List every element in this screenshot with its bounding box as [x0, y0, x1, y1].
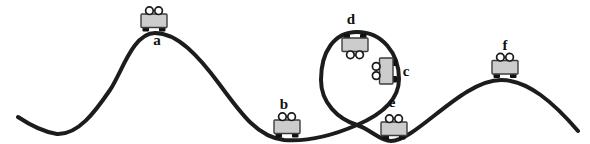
cart-d	[342, 34, 368, 59]
roller-coaster-diagram: a b c d e f	[0, 0, 590, 144]
cart-e	[381, 115, 407, 140]
cart-label-e: e	[389, 94, 396, 110]
cart-label-d: d	[347, 11, 356, 27]
cart-f	[492, 53, 518, 78]
cart-label-a: a	[153, 32, 161, 48]
cart-c	[372, 58, 397, 84]
cart-b	[274, 113, 300, 138]
cart-label-c: c	[403, 63, 410, 79]
cart-label-f: f	[503, 37, 509, 53]
cart-label-b: b	[280, 96, 288, 112]
cart-a	[141, 7, 167, 32]
